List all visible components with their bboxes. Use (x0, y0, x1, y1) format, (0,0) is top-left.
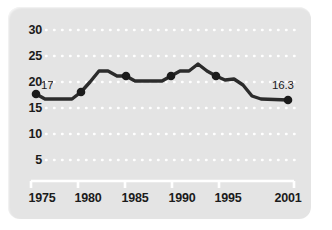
gridlines-group (46, 30, 302, 160)
data-point-1985 (122, 72, 131, 81)
data-point-1975 (32, 90, 41, 99)
x-axis-line-group (31, 181, 294, 188)
line-chart-figure: 30 25 20 15 10 5 1975 1980 1985 1990 199… (0, 0, 332, 230)
data-point-1980 (77, 88, 86, 97)
data-point-1995 (212, 72, 221, 81)
data-point-1990 (167, 72, 176, 81)
data-line-series (36, 64, 288, 100)
data-point-2001 (284, 96, 293, 105)
plot-area (0, 0, 332, 230)
